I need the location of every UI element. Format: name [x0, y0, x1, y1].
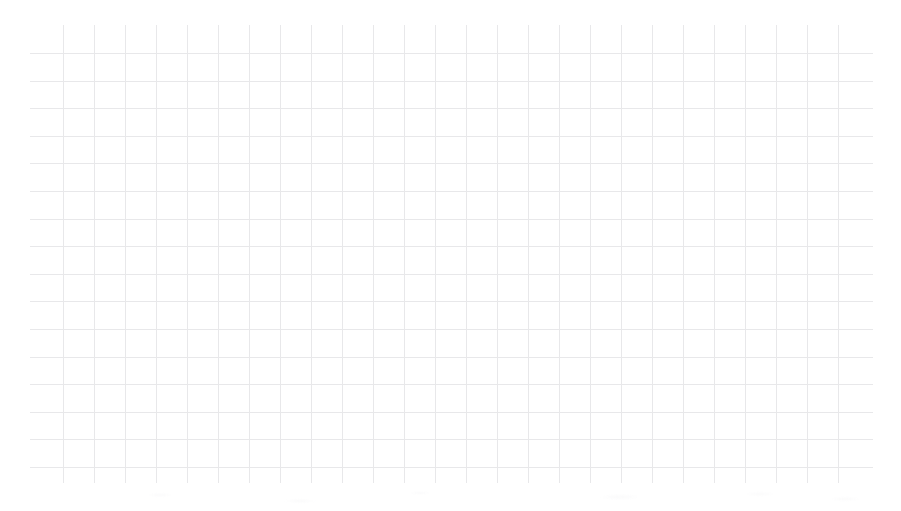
grid-line-horizontal [30, 329, 873, 330]
grid-line-horizontal [30, 136, 873, 137]
grid-line-horizontal [30, 219, 873, 220]
grid-line-horizontal [30, 384, 873, 385]
grid-line-vertical [373, 25, 374, 483]
grid-line-vertical [311, 25, 312, 483]
grid-line-vertical [404, 25, 405, 483]
grid-line-horizontal [30, 108, 873, 109]
grid-line-vertical [187, 25, 188, 483]
grid-line-horizontal [30, 467, 873, 468]
grid-line-vertical [559, 25, 560, 483]
grid-line-vertical [838, 25, 839, 483]
grid-line-horizontal [30, 274, 873, 275]
grid-line-vertical [63, 25, 64, 483]
grid-line-horizontal [30, 357, 873, 358]
grid-line-vertical [125, 25, 126, 483]
grid-line-vertical [156, 25, 157, 483]
grid-line-horizontal [30, 439, 873, 440]
grid-line-vertical [745, 25, 746, 483]
grid-line-vertical [776, 25, 777, 483]
grid-line-vertical [807, 25, 808, 483]
grid-line-horizontal [30, 191, 873, 192]
grid-line-vertical [652, 25, 653, 483]
grid-line-vertical [94, 25, 95, 483]
grid-line-vertical [435, 25, 436, 483]
grid-line-vertical [280, 25, 281, 483]
grid-line-horizontal [30, 246, 873, 247]
grid-line-vertical [466, 25, 467, 483]
grid-line-horizontal [30, 412, 873, 413]
grid-line-vertical [249, 25, 250, 483]
grid-line-horizontal [30, 53, 873, 54]
grid-line-vertical [528, 25, 529, 483]
grid-line-vertical [621, 25, 622, 483]
grid-line-vertical [497, 25, 498, 483]
grid-line-vertical [218, 25, 219, 483]
grid-canvas [0, 0, 901, 511]
grid-line-horizontal [30, 81, 873, 82]
grid-line-vertical [342, 25, 343, 483]
grid-line-vertical [683, 25, 684, 483]
grid-line-horizontal [30, 163, 873, 164]
grid-line-vertical [714, 25, 715, 483]
grid-area [30, 25, 873, 483]
paper-noise-texture [0, 487, 901, 511]
grid-line-horizontal [30, 301, 873, 302]
grid-line-vertical [590, 25, 591, 483]
